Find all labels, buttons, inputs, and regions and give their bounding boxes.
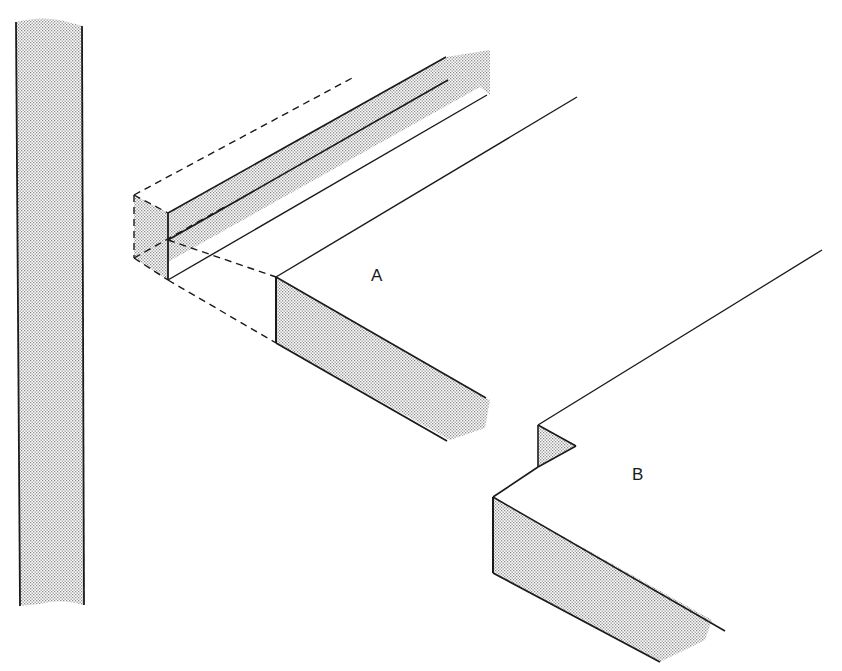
vertical-strip	[16, 18, 84, 606]
part-a: A	[134, 50, 577, 441]
label-a: A	[371, 266, 383, 285]
joint-diagram: A B	[0, 0, 842, 671]
label-b: B	[632, 465, 643, 484]
part-b: B	[493, 250, 822, 662]
